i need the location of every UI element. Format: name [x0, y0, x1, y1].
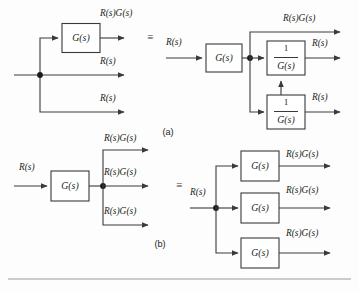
- branch-point-dot: [37, 72, 43, 78]
- label-a-right-input: R(s): [165, 37, 182, 48]
- label-b-right-out1: R(s)G(s): [285, 149, 318, 160]
- label-a-right-out2: R(s): [311, 38, 328, 49]
- block-g-b-right-top-label: G(s): [251, 160, 268, 172]
- figure-container: G(s) R(s)G(s) R(s) R(s) ≡ R(s) G(s): [0, 0, 359, 291]
- block-inv-g-lower-denominator: G(s): [277, 114, 294, 126]
- diagram-b-left: R(s) G(s) R(s)G(s) R(s)G(s) R(s)G(s): [14, 133, 148, 225]
- label-a-right-out3: R(s): [311, 92, 328, 103]
- label-a-left-out1: R(s)G(s): [99, 8, 132, 19]
- wire-a-left-up-branch: [40, 38, 58, 75]
- label-a-left-out2: R(s): [99, 56, 116, 67]
- diagram-b-right: R(s) G(s) G(s) G(s) R(s)G(s) R(s)G(s) R(…: [189, 149, 330, 268]
- block-g-a-left-label: G(s): [72, 32, 89, 44]
- part-label-b: (b): [154, 239, 165, 249]
- label-b-left-input: R(s): [18, 162, 35, 173]
- wire-b-right-branch-top: [216, 166, 238, 208]
- part-label-a: (a): [162, 127, 173, 137]
- block-inv-g-upper-denominator: G(s): [277, 60, 294, 72]
- block-g-b-right-middle-label: G(s): [251, 202, 268, 214]
- block-diagram-canvas: G(s) R(s)G(s) R(s) R(s) ≡ R(s) G(s): [0, 0, 359, 291]
- block-g-b-left-label: G(s): [61, 180, 78, 192]
- equivalence-symbol-b: ≡: [176, 179, 182, 191]
- label-b-right-out2: R(s)G(s): [285, 185, 318, 196]
- equivalence-symbol-a: ≡: [147, 31, 153, 43]
- label-a-left-out3: R(s): [99, 93, 116, 104]
- label-b-right-input: R(s): [189, 187, 206, 198]
- block-g-a-right-label: G(s): [215, 52, 232, 64]
- wire-a-right-node-to-invlower: [250, 58, 264, 112]
- block-inv-g-lower-numerator: 1: [284, 97, 289, 107]
- block-inv-g-upper-numerator: 1: [284, 43, 289, 53]
- label-b-left-out3: R(s)G(s): [103, 206, 136, 217]
- label-a-right-out1: R(s)G(s): [282, 13, 315, 24]
- label-b-right-out3: R(s)G(s): [285, 228, 318, 239]
- block-g-b-right-bottom-label: G(s): [251, 247, 268, 259]
- label-b-left-out1: R(s)G(s): [103, 133, 136, 144]
- diagram-a-right: R(s) G(s) 1 G(s) 1 G(s): [165, 13, 340, 129]
- diagram-a-left: G(s) R(s)G(s) R(s) R(s): [14, 8, 132, 112]
- label-b-left-out2: R(s)G(s): [103, 167, 136, 178]
- wire-b-right-branch-bot: [216, 208, 238, 253]
